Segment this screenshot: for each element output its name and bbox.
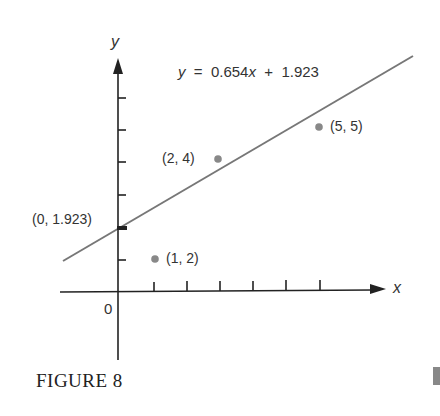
y-axis-label: y (111, 33, 119, 51)
point-label-2-4: (2, 4) (162, 150, 195, 166)
data-point-2-4 (214, 155, 222, 163)
point-label-1-2: (1, 2) (166, 250, 199, 266)
data-point-5-5 (315, 123, 323, 131)
origin-label: 0 (104, 300, 112, 317)
x-axis-arrow-icon (370, 284, 386, 294)
x-axis-label: x (393, 279, 401, 297)
y-ticks (118, 98, 126, 260)
data-point-1-2 (151, 255, 159, 263)
y-axis-arrow-icon (113, 58, 123, 74)
intercept-label: (0, 1.923) (32, 211, 92, 227)
point-label-5-5: (5, 5) (330, 118, 363, 134)
figure-caption: FIGURE 8 (36, 370, 123, 392)
equation-label: y = 0.654x + 1.923 (178, 63, 319, 80)
x-axis (60, 290, 372, 292)
regression-line (63, 56, 413, 261)
page-edge-marker (433, 367, 440, 385)
intercept-marker (117, 226, 127, 230)
